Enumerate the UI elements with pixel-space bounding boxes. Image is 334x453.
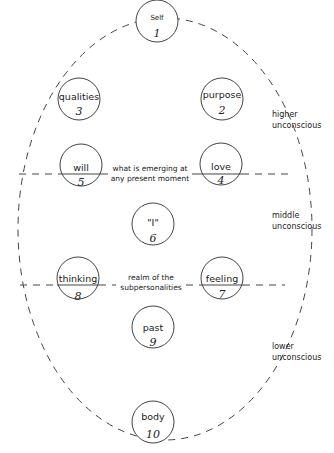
region-middle-line2: unconscious — [272, 222, 321, 231]
upper-connector-label-line1: what is emerging at — [113, 164, 188, 173]
node-will: will 5 — [60, 144, 102, 189]
region-higher-line2: unconscious — [272, 121, 321, 130]
node-label: thinking — [59, 273, 98, 284]
node-number: 5 — [78, 176, 85, 189]
lower-connector-label-line2: subpersonalities — [120, 283, 182, 292]
node-label: body — [141, 411, 165, 422]
node-label: Self — [150, 14, 164, 22]
node-past: past 9 — [132, 306, 174, 349]
node-love: love 4 — [200, 143, 242, 187]
node-label: "I" — [147, 217, 159, 228]
node-thinking: thinking 8 — [57, 257, 99, 303]
upper-connector-label-line2: any present moment — [111, 174, 190, 183]
node-number: 8 — [75, 290, 82, 303]
node-purpose: purpose 2 — [201, 78, 243, 120]
lower-connector-label-line1: realm of the — [128, 273, 174, 282]
region-middle-line1: middle — [272, 211, 299, 220]
node-label: past — [143, 322, 164, 333]
node-number: 4 — [217, 174, 225, 187]
node-label: qualities — [59, 91, 99, 102]
node-label: feeling — [206, 273, 238, 284]
node-number: 10 — [146, 428, 160, 441]
node-i: "I" 6 — [132, 203, 174, 245]
region-lower-line1: lower — [272, 342, 295, 351]
node-number: 2 — [218, 104, 226, 117]
node-self: Self 1 — [136, 0, 178, 42]
node-number: 6 — [150, 232, 157, 245]
node-label: love — [211, 161, 231, 172]
node-number: 7 — [219, 288, 226, 301]
node-label: will — [73, 162, 89, 173]
node-number: 9 — [150, 336, 157, 349]
region-higher-line1: higher — [272, 110, 298, 119]
node-label: purpose — [203, 89, 242, 100]
node-qualities: qualities 3 — [58, 78, 100, 120]
node-feeling: feeling 7 — [201, 257, 243, 301]
egg-diagram: Self 1 purpose 2 qualities 3 love 4 will… — [0, 0, 334, 453]
region-lower-line2: unconscious — [272, 353, 321, 362]
node-number: 1 — [154, 27, 161, 40]
node-body: body 10 — [132, 401, 174, 443]
node-number: 3 — [76, 105, 83, 118]
